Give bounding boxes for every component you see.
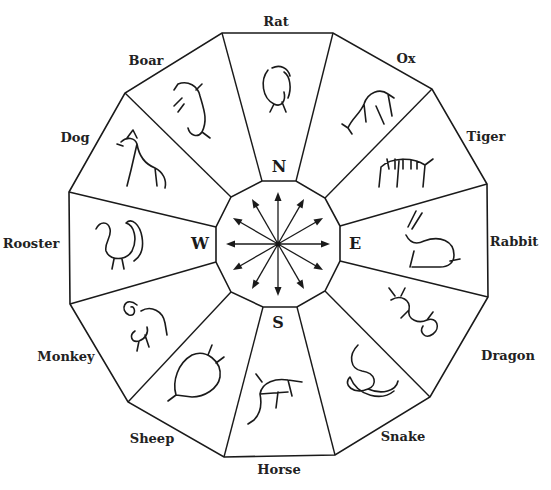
animal-label-monkey: Monkey (37, 349, 94, 364)
animal-label-dog: Dog (60, 130, 89, 145)
arrow-head-icon (252, 199, 260, 209)
arrow-head-icon (296, 279, 304, 289)
animal-label-boar: Boar (129, 53, 164, 68)
boar-icon (174, 83, 210, 138)
animal-label-tiger: Tiger (467, 129, 506, 144)
compass-rose (226, 192, 330, 296)
animal-label-horse: Horse (257, 462, 300, 477)
segment-divider (224, 307, 263, 457)
rabbit-icon (406, 211, 460, 267)
segment-divider (297, 307, 335, 455)
animal-label-sheep: Sheep (130, 431, 174, 446)
direction-n: N (272, 157, 287, 176)
animal-label-dragon: Dragon (481, 348, 535, 363)
arrow-head-icon (313, 218, 323, 226)
rooster-icon (96, 221, 143, 269)
arrow-head-icon (233, 218, 243, 226)
dragon-icon (389, 288, 437, 336)
zodiac-wheel (0, 0, 551, 490)
snake-icon (347, 345, 398, 396)
segment-divider (222, 33, 262, 181)
arrow-head-icon (296, 199, 304, 209)
direction-e: E (349, 234, 361, 253)
segment-divider (325, 89, 432, 198)
sheep-icon (168, 345, 224, 401)
arrow-head-icon (313, 262, 323, 270)
rat-icon (263, 66, 290, 112)
segment-divider (340, 184, 487, 226)
animal-label-rabbit: Rabbit (490, 234, 539, 249)
animal-label-rat: Rat (263, 14, 289, 29)
segment-divider (125, 93, 231, 197)
arrow-head-icon (275, 287, 282, 296)
segment-divider (69, 192, 216, 227)
dog-icon (117, 130, 166, 188)
direction-w: W (191, 234, 209, 253)
animal-label-snake: Snake (381, 429, 426, 444)
arrow-head-icon (226, 241, 235, 248)
segment-divider (296, 33, 333, 181)
zodiac-diagram: RatOxTigerRabbitDragonSnakeHorseSheepMon… (0, 0, 551, 490)
horse-icon (248, 374, 302, 424)
arrow-head-icon (321, 241, 330, 248)
monkey-icon (124, 302, 167, 351)
animal-label-ox: Ox (396, 51, 415, 66)
arrow-head-icon (233, 262, 243, 270)
arrow-head-icon (275, 192, 282, 201)
direction-s: S (272, 313, 284, 332)
segment-divider (70, 262, 216, 304)
arrow-head-icon (252, 279, 260, 289)
ox-icon (342, 91, 394, 134)
tiger-icon (379, 159, 433, 187)
animal-label-rooster: Rooster (3, 236, 60, 251)
segment-divider (325, 291, 430, 397)
